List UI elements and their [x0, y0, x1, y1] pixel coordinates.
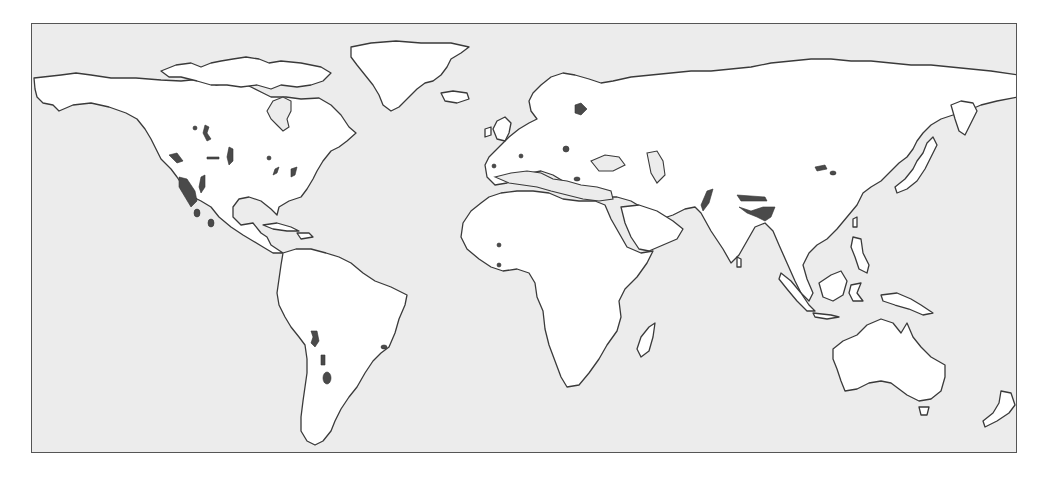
- patch-alps: [563, 146, 569, 152]
- patch-sardinia: [519, 154, 523, 158]
- patch-canada-1: [193, 126, 197, 130]
- borneo: [819, 271, 847, 301]
- sulawesi: [849, 283, 863, 301]
- south-america: [277, 249, 407, 445]
- ireland: [485, 127, 491, 137]
- iceland: [441, 91, 469, 103]
- patch-balkans: [574, 177, 580, 181]
- patch-plains: [207, 157, 219, 159]
- patch-manchuria: [830, 171, 836, 175]
- new-guinea: [881, 293, 933, 315]
- patch-west-africa-1: [497, 243, 501, 247]
- patch-andes-mid: [321, 355, 325, 365]
- patch-baja: [194, 209, 200, 217]
- philippines: [851, 237, 869, 273]
- taiwan: [853, 217, 857, 227]
- patch-midwest: [267, 156, 271, 160]
- madagascar: [637, 323, 655, 357]
- patch-west-africa-2: [497, 263, 501, 267]
- patch-iberia: [492, 164, 496, 168]
- cuba: [263, 223, 299, 231]
- world-map: [31, 23, 1017, 453]
- australia: [833, 319, 945, 401]
- kamchatka: [951, 101, 977, 135]
- patch-brazil-east: [381, 345, 387, 349]
- tasmania: [919, 407, 929, 415]
- patch-mexico: [208, 219, 214, 227]
- north-america: [34, 73, 356, 253]
- new-zealand: [983, 391, 1015, 427]
- map-canvas: [32, 24, 1017, 453]
- sri-lanka: [737, 257, 741, 267]
- patch-andes-south: [323, 372, 331, 384]
- java: [813, 313, 839, 319]
- hispaniola: [297, 233, 313, 239]
